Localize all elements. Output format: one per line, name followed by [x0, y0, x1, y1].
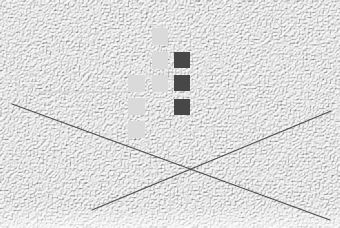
diagonal-line-ascending — [92, 111, 331, 210]
lines-layer — [0, 0, 340, 228]
textured-canvas — [0, 0, 340, 228]
diagonal-line-descending — [12, 104, 330, 220]
